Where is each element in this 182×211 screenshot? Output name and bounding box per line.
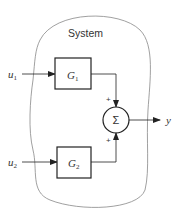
svg-text:u2: u2 (8, 156, 18, 170)
block-diagram: System u1 G1 + Σ y u2 G2 + (0, 0, 182, 211)
g1-to-sum-line (91, 74, 116, 107)
svg-text:Σ: Σ (113, 114, 120, 126)
block-g1: G1 (55, 58, 91, 89)
sign-plus-top: + (106, 95, 111, 104)
svg-text:y: y (165, 114, 171, 126)
system-title: System (68, 27, 103, 39)
block-g2: G2 (57, 147, 91, 178)
input-u1: u1 (8, 68, 55, 82)
output-y: y (129, 114, 171, 126)
input-u2: u2 (8, 156, 57, 170)
summing-junction: Σ (103, 107, 129, 133)
sign-plus-bottom: + (106, 136, 111, 145)
system-boundary (30, 16, 150, 207)
g2-to-sum-line (91, 133, 116, 162)
svg-text:u1: u1 (8, 68, 18, 82)
